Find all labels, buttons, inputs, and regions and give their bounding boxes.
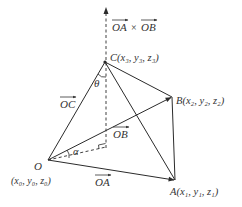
alpha-arc [67,150,69,158]
vector-OA [48,160,174,180]
point-O-coords: (x₀, y₀, z₀) [11,175,52,187]
edge-CA [105,62,175,180]
normal-arrow-head-icon [104,7,109,14]
vector-OB-label: OB [113,127,129,140]
svg-text:×: × [131,22,137,33]
tetrahedron-diagram: OA × OB C(x₃, y₃, z₃) B(x₂, y₂, z₂) A(x₁… [0,0,242,207]
vector-OC-label: OC [60,97,76,110]
svg-text:OA: OA [112,21,127,33]
theta-label: θ [94,77,100,89]
svg-text:OB: OB [141,21,156,33]
svg-text:OA: OA [95,176,110,188]
svg-text:OB: OB [113,128,128,140]
alpha-label: α [73,146,79,157]
cross-product-label: OA × OB [112,20,157,33]
point-C-label: C(x₃, y₃, z₃) [110,52,159,64]
point-A-label: A(x₁, y₁, z₁) [169,186,219,198]
point-C-dot [103,60,106,63]
edge-BA [172,97,175,180]
vector-OA-label: OA [95,175,111,188]
svg-text:OC: OC [60,98,76,110]
point-O-label: O [34,160,42,172]
point-B-label: B(x₂, y₂, z₂) [176,95,225,107]
